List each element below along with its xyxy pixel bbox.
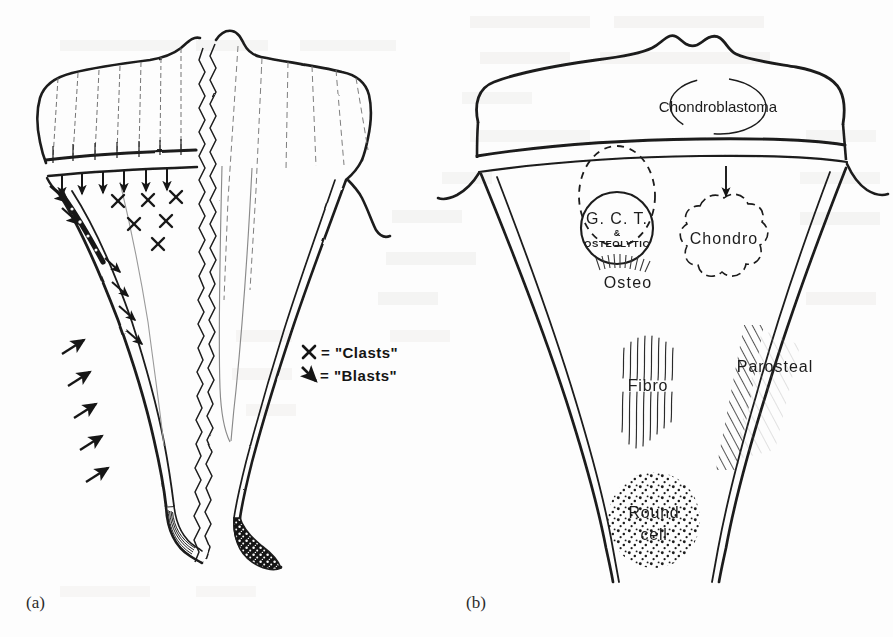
chondro-label: Chondro [690,230,758,247]
osteo-label: Osteo [604,274,653,291]
caption-b: (b) [466,593,486,612]
epiphysis-left-side-b [477,122,478,158]
bone-tumour-diagram: = "Clasts" = "Blasts" [0,0,893,637]
legend-blasts-label: = "Blasts" [320,367,397,384]
osteolytic-label: OSTEOLYTIC [584,238,650,249]
round-cell-label-line1: Round [628,504,679,521]
legend-clasts-label: = "Clasts" [321,344,398,361]
fibro-label: Fibro [628,377,668,394]
caption-a: (a) [26,593,45,612]
round-cell-label-line2: cell [640,526,667,543]
gct-label: G. C. T. [586,210,648,227]
gct-ampersand-label: & [614,228,621,238]
chondroblastoma-label: Chondroblastoma [659,98,778,115]
parosteal-label: Parosteal [737,358,814,375]
figure-container: = "Clasts" = "Blasts" [0,0,893,637]
